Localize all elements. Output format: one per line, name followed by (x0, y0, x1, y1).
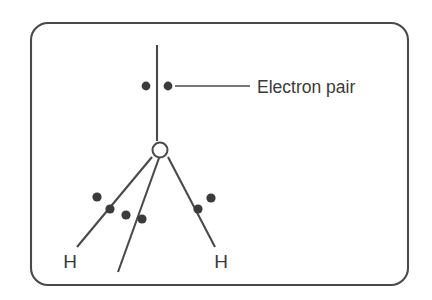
electron-dot-bond-pair-right-inner (193, 204, 202, 213)
electron-dot-bond-pair-left-outer (92, 192, 101, 201)
diagram-frame (31, 23, 408, 285)
electron-dot-bond-pair-left-inner (105, 204, 114, 213)
hydrogen-right-label: H (214, 251, 228, 272)
electron-dot-bond-pair-right-outer (206, 193, 215, 202)
electron-dot-lone-pair-top-right (164, 82, 173, 91)
electron-dot-lone-pair-lower-left (121, 210, 130, 219)
electron-dot-lone-pair-lower-right (137, 214, 146, 223)
electron-dot-lone-pair-top-left (142, 82, 151, 91)
water-lone-pair-diagram: Electron pair H H (0, 0, 432, 300)
diagram-canvas: Electron pair H H (0, 0, 432, 300)
oxygen-atom-circle (153, 143, 168, 158)
electron-pair-label: Electron pair (257, 77, 355, 97)
hydrogen-left-label: H (63, 251, 77, 272)
